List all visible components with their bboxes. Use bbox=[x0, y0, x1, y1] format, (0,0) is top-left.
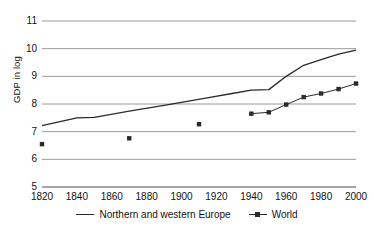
legend-item-world: World bbox=[249, 209, 298, 220]
legend-label-europe: Northern and western Europe bbox=[99, 209, 230, 220]
legend-item-europe: Northern and western Europe bbox=[76, 209, 230, 220]
series-world bbox=[40, 81, 358, 146]
y-tick-10: 10 bbox=[15, 44, 37, 54]
legend-label-world: World bbox=[272, 209, 298, 220]
y-tick-9: 9 bbox=[15, 71, 37, 81]
y-tick-6: 6 bbox=[15, 154, 37, 164]
chart-legend: Northern and western Europe World bbox=[0, 209, 374, 220]
legend-square-marker-icon bbox=[249, 211, 267, 218]
gdp-log-chart: GDP in log 567891011 1820184018601880190… bbox=[0, 0, 374, 234]
legend-line-icon bbox=[76, 214, 94, 215]
y-tick-11: 11 bbox=[15, 16, 37, 26]
y-tick-7: 7 bbox=[15, 127, 37, 137]
y-tick-8: 8 bbox=[15, 99, 37, 109]
gridlines bbox=[42, 21, 356, 159]
series-northern-and-western-europe bbox=[42, 50, 356, 126]
x-tick-2000: 2000 bbox=[336, 192, 374, 202]
